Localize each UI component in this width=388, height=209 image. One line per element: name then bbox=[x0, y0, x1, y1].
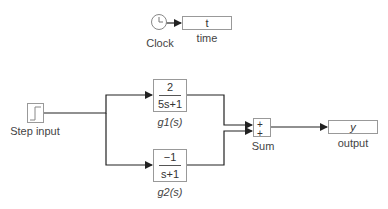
step-input-label: Step input bbox=[5, 125, 65, 137]
time-variable: t bbox=[205, 17, 208, 29]
output-variable: y bbox=[350, 121, 356, 133]
g1-numerator: 2 bbox=[165, 81, 175, 93]
step-input-block[interactable] bbox=[27, 103, 44, 123]
time-label: time bbox=[182, 32, 232, 44]
g1-denominator: 5s+1 bbox=[156, 98, 184, 110]
clock-label: Clock bbox=[140, 37, 180, 49]
g2-numerator: −1 bbox=[162, 151, 179, 163]
g1-transfer-fcn-block[interactable]: 2 5s+1 bbox=[153, 79, 187, 112]
clock-block[interactable] bbox=[151, 14, 167, 30]
g1-fraction-bar bbox=[159, 95, 181, 96]
g2-denominator: s+1 bbox=[159, 168, 181, 180]
sum-block[interactable]: + + bbox=[253, 118, 271, 137]
g2-label: g2(s) bbox=[150, 186, 190, 198]
time-block[interactable]: t bbox=[182, 16, 232, 30]
sum-label: Sum bbox=[248, 140, 278, 152]
output-block[interactable]: y bbox=[328, 120, 378, 134]
g2-transfer-fcn-block[interactable]: −1 s+1 bbox=[153, 149, 187, 182]
g1-label: g1(s) bbox=[150, 116, 190, 128]
clock-icon bbox=[152, 15, 166, 29]
sum-sign-2: + bbox=[257, 129, 270, 138]
step-icon bbox=[28, 104, 43, 122]
g2-fraction-bar bbox=[159, 165, 181, 166]
output-label: output bbox=[328, 137, 378, 149]
